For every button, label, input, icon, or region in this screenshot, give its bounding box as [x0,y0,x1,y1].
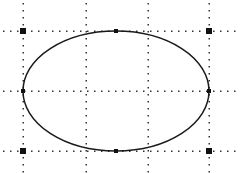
resize-handle-mid-left[interactable] [21,89,25,93]
resize-handle-mid-right[interactable] [207,89,211,93]
resize-handle-bottom-mid[interactable] [114,149,118,153]
resize-handle-top-mid[interactable] [114,29,118,33]
drawing-canvas[interactable] [0,0,240,173]
resize-handle-bottom-left[interactable] [20,148,26,154]
vertical-guide-line [86,3,88,173]
resize-handle-top-right[interactable] [206,28,212,34]
horizontal-guide-line [3,91,236,93]
resize-handle-top-left[interactable] [20,28,26,34]
resize-handle-bottom-right[interactable] [206,148,212,154]
dotted-guide-grid [3,3,236,173]
